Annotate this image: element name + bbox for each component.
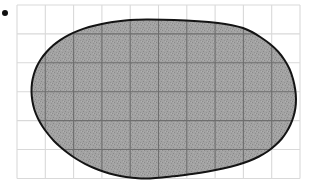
area-estimation-figure [0, 0, 327, 193]
bullet-point-marker [2, 10, 8, 16]
figure-root [0, 0, 327, 193]
